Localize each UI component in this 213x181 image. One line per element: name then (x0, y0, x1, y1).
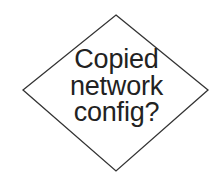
label-line-1: Copied (0, 46, 213, 73)
flowchart-diagram: Copied network config? (0, 0, 213, 181)
decision-node-label: Copied network config? (0, 46, 213, 126)
label-line-2: network (0, 73, 213, 100)
label-line-3: config? (0, 99, 213, 126)
